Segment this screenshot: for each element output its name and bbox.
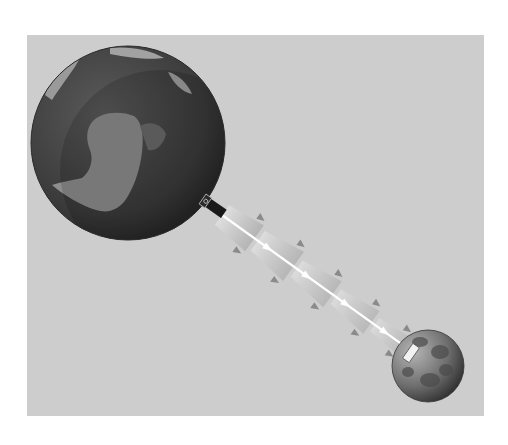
laser-beam-cones bbox=[207, 194, 429, 374]
moon bbox=[392, 330, 464, 402]
earth-moon-laser-illustration bbox=[0, 0, 508, 445]
earth bbox=[31, 46, 260, 270]
